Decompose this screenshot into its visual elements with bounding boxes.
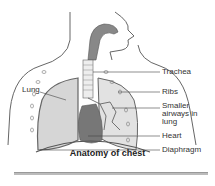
- divider-rule: [14, 172, 208, 175]
- lung-left-shape: [38, 78, 79, 150]
- lung-right-shape: [98, 78, 138, 150]
- trachea-shape: [83, 60, 93, 98]
- label-smaller-airways-3: lung: [162, 118, 177, 126]
- label-trachea: Trachea: [162, 68, 191, 76]
- heart-shape: [78, 104, 102, 143]
- label-ribs: Ribs: [162, 88, 178, 96]
- label-lung: Lung: [22, 86, 40, 94]
- upper-airway: [88, 24, 118, 60]
- head-outline: [110, 12, 134, 60]
- diagram-caption: Anatomy of chest: [0, 148, 215, 158]
- label-heart: Heart: [162, 132, 182, 140]
